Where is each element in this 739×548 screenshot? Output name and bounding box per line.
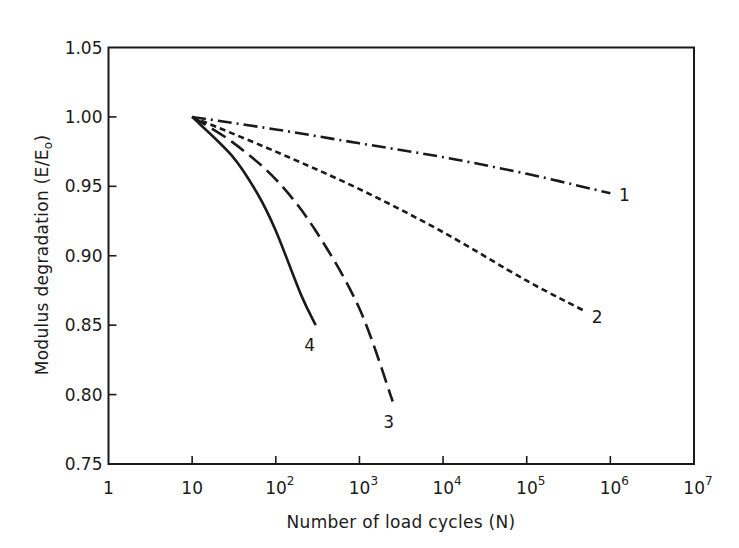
curve-1 (192, 117, 610, 193)
curve-label-3: 3 (383, 412, 394, 432)
curve-label-4: 4 (304, 335, 315, 355)
curve-4 (192, 117, 316, 325)
y-axis-title: Modulus degradation (E/Eo) (32, 135, 55, 376)
x-tick-label: 1 (103, 478, 114, 498)
svg-text:Modulus degradation (E/Eo): Modulus degradation (E/Eo) (32, 135, 55, 376)
x-tick-label: 102 (265, 474, 294, 498)
y-tick-label: 0.75 (65, 454, 103, 474)
y-tick-label: 0.80 (65, 385, 103, 405)
curve-label-1: 1 (619, 185, 630, 205)
x-tick-label: 107 (683, 474, 712, 498)
curve-3 (192, 117, 393, 402)
chart-svg: 0.750.800.850.900.951.001.05 11010210310… (0, 0, 739, 548)
y-axis-title-main: Modulus degradation (E/E (32, 149, 52, 375)
y-tick-label: 1.05 (65, 38, 103, 58)
x-tick-label: 106 (600, 474, 629, 498)
plot-frame (109, 48, 695, 465)
y-axis-title-close: ) (32, 135, 52, 142)
y-tick-label: 0.85 (65, 315, 103, 335)
curve-label-2: 2 (592, 307, 603, 327)
curves (192, 117, 610, 402)
y-axis-title-subscript: o (41, 142, 55, 150)
y-tick-label: 0.95 (65, 176, 103, 196)
x-tick-label: 105 (516, 474, 545, 498)
x-axis-ticks: 110102103104105106107 (103, 456, 713, 498)
curve-2 (192, 117, 585, 311)
x-tick-label: 104 (432, 474, 461, 498)
x-tick-label: 10 (181, 478, 203, 498)
x-tick-label: 103 (349, 474, 378, 498)
y-tick-label: 0.90 (65, 246, 103, 266)
y-tick-label: 1.00 (65, 107, 103, 127)
x-axis-title: Number of load cycles (N) (287, 512, 516, 532)
